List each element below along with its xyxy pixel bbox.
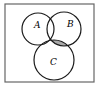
universal-set-border: [5, 4, 94, 82]
venn-diagram: A B C: [0, 0, 99, 85]
label-b: B: [66, 19, 74, 29]
label-c: C: [50, 57, 57, 67]
label-a: A: [33, 20, 41, 30]
